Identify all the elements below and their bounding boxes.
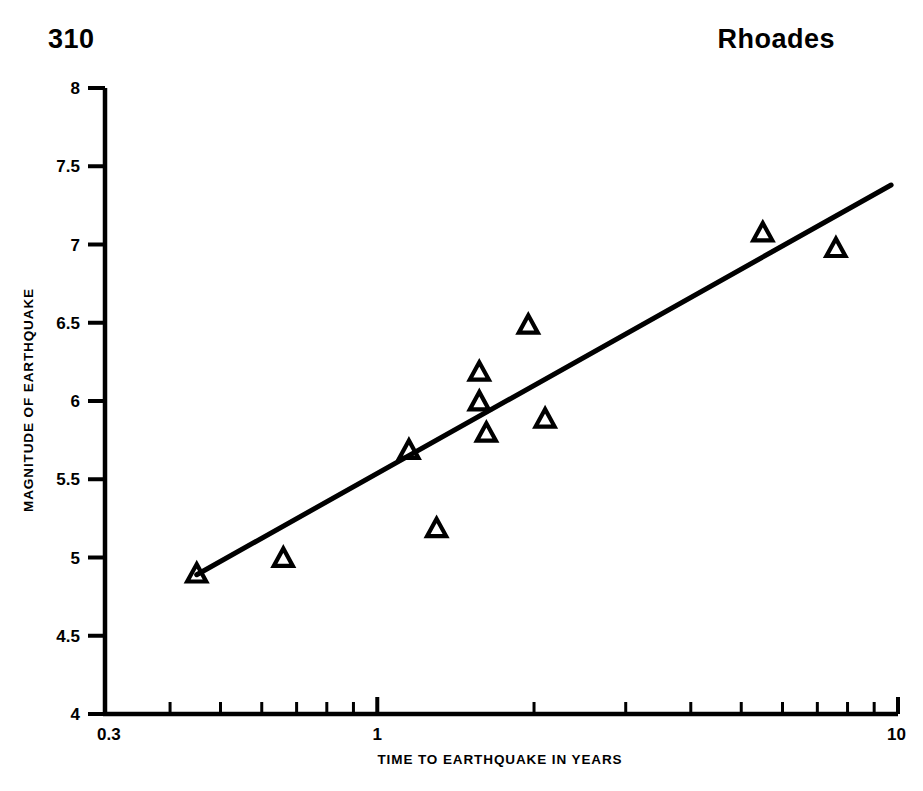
data-point-triangle [826, 239, 845, 256]
y-axis-tick-label: 6 [71, 392, 80, 411]
x-axis-tick-label: 10 [887, 725, 906, 744]
regression-line [197, 185, 891, 575]
x-axis-tick-label: 0.3 [97, 725, 121, 744]
data-point-triangle [536, 409, 555, 426]
figure-scatter-plot: 44.555.566.577.58 0.3110 TIME TO EARTHQU… [0, 0, 923, 791]
y-axis-tick-label: 4.5 [56, 627, 80, 646]
y-axis-ticks [88, 88, 105, 714]
y-axis-tick-label: 8 [71, 79, 80, 98]
data-point-triangle [427, 519, 446, 536]
y-axis-tick-label: 4 [71, 705, 81, 724]
data-point-triangle [477, 423, 496, 440]
data-point-triangle [753, 223, 772, 240]
data-point-triangle [274, 549, 293, 566]
x-axis-tick-label: 1 [373, 725, 382, 744]
x-axis-ticks [105, 697, 898, 714]
y-axis-tick-label: 5 [71, 549, 80, 568]
y-axis-title: MAGNITUDE OF EARTHQUAKE [21, 288, 36, 512]
page-canvas: 310 Rhoades 44.555.566.577.58 0.3110 TIM… [0, 0, 923, 791]
x-axis-tick-labels: 0.3110 [97, 725, 906, 744]
data-point-markers [187, 223, 845, 582]
y-axis-tick-label: 6.5 [56, 314, 80, 333]
data-point-triangle [470, 362, 489, 379]
data-point-triangle [470, 392, 489, 409]
regression-line-path [197, 185, 891, 575]
y-axis-tick-labels: 44.555.566.577.58 [56, 79, 80, 724]
y-axis-tick-label: 5.5 [56, 470, 80, 489]
y-axis-tick-label: 7.5 [56, 157, 80, 176]
y-axis-tick-label: 7 [71, 236, 80, 255]
plot-svg: 44.555.566.577.58 0.3110 TIME TO EARTHQU… [0, 0, 923, 791]
x-axis-title: TIME TO EARTHQUAKE IN YEARS [377, 752, 622, 767]
data-point-triangle [519, 315, 538, 332]
plot-axes [103, 88, 898, 714]
